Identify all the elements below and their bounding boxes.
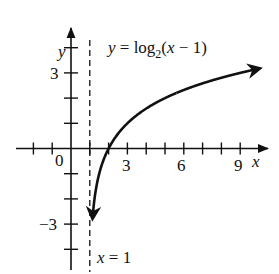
log-curve [93,68,260,218]
y-tick-label-neg3: −3 [39,215,57,234]
curve-lower [93,93,177,219]
y-tick-label-3: 3 [50,64,59,83]
x-tick-label-3: 3 [122,156,131,175]
x-tick-label-6: 6 [177,156,186,175]
asymptote-label: x = 1 [96,248,131,267]
chart-canvas: y x 0 3 6 9 3 −3 y = log2(x − 1) x = 1 [0,0,279,274]
origin-label: 0 [55,151,64,170]
x-axis-label: x [251,152,260,171]
function-label: y = log2(x − 1) [106,38,207,61]
curve-upper [176,68,259,93]
x-tick-label-9: 9 [234,156,243,175]
y-axis-label: y [56,42,66,61]
